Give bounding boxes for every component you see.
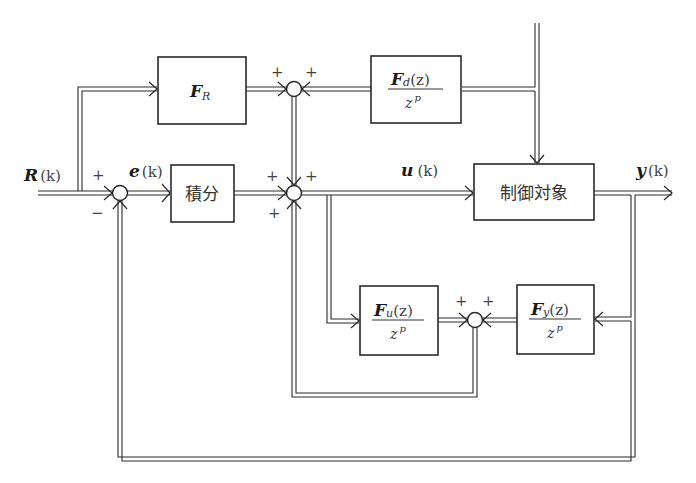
sign-plus: + (92, 166, 105, 184)
signal-label-error: e(k) (129, 161, 163, 181)
wire-Fd-to-topsum (302, 87, 371, 91)
wire-integrator-to-sum (234, 191, 286, 195)
arrowhead (104, 186, 112, 200)
wire-Fy-to-filtersum (483, 318, 517, 322)
arrowhead (530, 155, 544, 163)
sign-minus: − (91, 204, 104, 222)
block-disturbance-ff: Fd(z) zp (371, 56, 461, 123)
block-plant: 制御対象 (474, 164, 594, 220)
arrowhead (278, 82, 286, 96)
wire-u-to-Fu (327, 195, 359, 323)
arrowhead (149, 82, 157, 96)
arrowhead (483, 313, 491, 327)
block-output-filter: Fy(z) zp (517, 285, 594, 354)
signal-label-output: y(k) (635, 160, 669, 180)
sign-plus: + (482, 292, 495, 310)
sign-plus: + (268, 204, 281, 222)
wire-plant-output (594, 191, 672, 195)
arrowhead (302, 82, 310, 96)
arrowhead (351, 314, 359, 328)
summing-junction-main (287, 186, 302, 201)
wire-reference-in (38, 191, 112, 195)
arrowhead (287, 201, 301, 209)
signal-label-control-input: u(k) (401, 160, 438, 180)
sign-plus: + (455, 292, 468, 310)
arrowhead (459, 313, 467, 327)
arrowhead (113, 201, 127, 209)
arrowhead (162, 184, 170, 202)
wire-FR-to-topsum (246, 87, 286, 91)
block-integrator: 積分 (171, 165, 234, 222)
wire-disturbance (462, 23, 539, 163)
block-diagram: + − + + + + + + + FR Fd(z) zp 積分 制御対象 (0, 0, 696, 483)
sign-plus: + (271, 63, 284, 81)
arrowhead (278, 186, 286, 200)
wire-Fu-to-filtersum (438, 318, 467, 322)
arrowhead (664, 186, 672, 200)
wire-topsum-to-mainsum (292, 96, 296, 185)
block-numerator: Fy(z) (530, 299, 569, 319)
block-numerator: Fd(z) (390, 69, 430, 89)
block-label: 制御対象 (500, 183, 568, 203)
arrowhead (595, 312, 603, 326)
sign-plus: + (305, 167, 318, 185)
wire-u-to-plant (301, 191, 473, 195)
arrowhead (287, 177, 301, 185)
block-numerator: Fu(z) (373, 300, 413, 320)
block-input-filter: Fu(z) zp (360, 286, 438, 355)
sign-plus: + (305, 63, 318, 81)
sign-plus: + (266, 167, 279, 185)
wire-error-to-integrator (127, 191, 170, 195)
arrowhead (465, 186, 473, 200)
block-label: 積分 (185, 184, 219, 204)
summing-junction-error (113, 186, 128, 201)
wires (38, 23, 672, 461)
summing-junction-filter (468, 313, 483, 328)
block-feedforward-ref: FR (158, 57, 246, 124)
signal-label-reference: R(k) (23, 165, 61, 185)
summing-junction-top (287, 82, 302, 97)
